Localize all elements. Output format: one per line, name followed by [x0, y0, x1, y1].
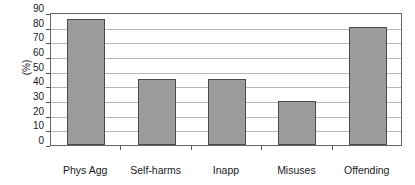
x-tick-mark-3 — [261, 146, 262, 150]
x-tick-mark-2 — [191, 146, 192, 150]
y-tick-label-80: 80 — [18, 19, 44, 29]
y-tick-label-30: 30 — [18, 92, 44, 102]
x-label-phys-agg: Phys Agg — [50, 151, 120, 185]
bar-slot-self-harms — [121, 14, 191, 145]
bar-chart: (%) 90 80 70 60 50 40 30 20 10 0 — [0, 0, 415, 185]
y-axis-tick-labels: 90 80 70 60 50 40 30 20 10 0 — [18, 8, 44, 146]
x-tick-mark-1 — [120, 146, 121, 150]
bar-offending[interactable] — [349, 27, 387, 145]
x-label-inapp-sexualised-line-0: Inapp — [191, 164, 261, 177]
y-tick-label-20: 20 — [18, 107, 44, 117]
bars-layer — [51, 14, 401, 145]
bar-slot-offending — [333, 14, 403, 145]
x-label-self-harms: Self-harms — [120, 151, 190, 185]
y-tick-label-0: 0 — [18, 136, 44, 146]
x-label-inapp-sexualised: Inapp sexualised — [191, 151, 261, 185]
plot-area — [50, 13, 402, 146]
bar-phys-agg[interactable] — [67, 19, 105, 145]
x-label-misuses-alc-drugs: Misuses Alc/Drugs — [261, 151, 331, 185]
y-tick-label-10: 10 — [18, 121, 44, 131]
y-tick-label-60: 60 — [18, 48, 44, 58]
bar-slot-misuses-alc-drugs — [262, 14, 332, 145]
y-tick-label-50: 50 — [18, 63, 44, 73]
y-tick-label-40: 40 — [18, 77, 44, 87]
x-label-phys-agg-line-0: Phys Agg — [50, 164, 120, 177]
bar-slot-inapp-sexualised — [192, 14, 262, 145]
x-label-offending-line-0: Offending — [332, 164, 402, 177]
bar-self-harms[interactable] — [138, 79, 176, 146]
x-label-self-harms-line-0: Self-harms — [120, 164, 190, 177]
y-tick-label-90: 90 — [18, 4, 44, 14]
bar-inapp-sexualised[interactable] — [208, 79, 246, 146]
x-label-offending: Offending — [332, 151, 402, 185]
bar-misuses-alc-drugs[interactable] — [278, 101, 316, 145]
x-tick-mark-4 — [332, 146, 333, 150]
bar-slot-phys-agg — [51, 14, 121, 145]
y-tick-mark-0 — [46, 146, 50, 147]
x-axis-category-labels: Phys Agg Self-harms Inapp sexualised Mis… — [50, 151, 402, 183]
y-tick-label-70: 70 — [18, 33, 44, 43]
x-label-misuses-alc-drugs-line-0: Misuses — [261, 164, 331, 177]
